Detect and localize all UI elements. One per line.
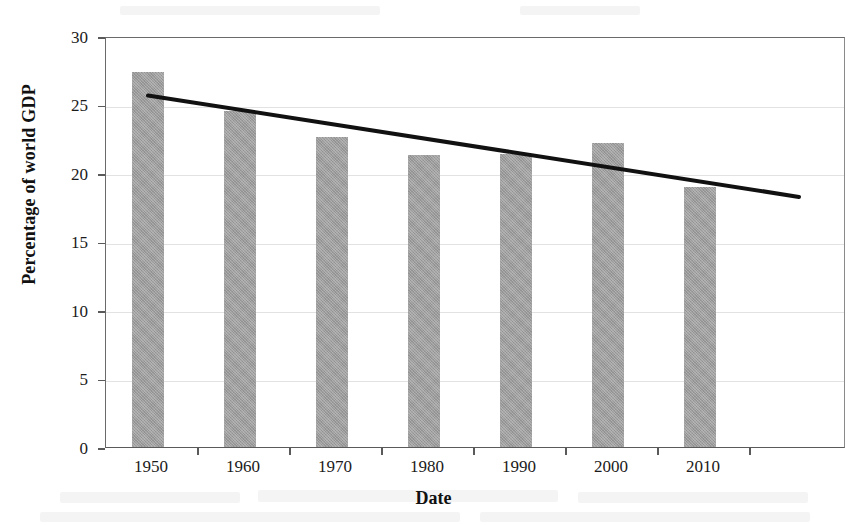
x-tick-mark [289, 448, 291, 455]
y-tick-label-25: 25 [38, 97, 88, 114]
bar-2000 [592, 143, 624, 447]
y-tick-mark [98, 380, 105, 382]
bars-layer [106, 38, 844, 447]
y-tick-mark [98, 174, 105, 176]
x-tick-label-1950: 1950 [105, 458, 197, 475]
x-tick-label-2000: 2000 [565, 458, 657, 475]
y-tick-mark [98, 311, 105, 313]
x-tick-mark [473, 448, 475, 455]
y-tick-label-15: 15 [38, 234, 88, 251]
scan-bleed-artifact [120, 6, 380, 15]
chart-figure: Percentage of world GDP 30 25 20 15 10 5… [0, 0, 867, 525]
y-tick-label-10: 10 [38, 303, 88, 320]
x-axis-title: Date [0, 488, 867, 509]
x-tick-label-1990: 1990 [473, 458, 565, 475]
y-tick-mark [98, 243, 105, 245]
y-tick-label-20: 20 [38, 166, 88, 183]
scan-bleed-artifact [40, 512, 460, 522]
plot-area [105, 37, 845, 448]
y-tick-mark [98, 37, 105, 39]
scan-bleed-artifact [480, 512, 810, 522]
x-tick-mark [565, 448, 567, 455]
y-axis-title: Percentage of world GDP [19, 70, 40, 300]
y-tick-mark [98, 448, 105, 450]
y-tick-mark [98, 106, 105, 108]
x-tick-label-1970: 1970 [289, 458, 381, 475]
y-tick-label-0: 0 [38, 440, 88, 457]
y-tick-label-5: 5 [38, 371, 88, 388]
bar-1980 [408, 155, 440, 447]
x-tick-mark [657, 448, 659, 455]
x-tick-mark [381, 448, 383, 455]
bar-2010 [684, 187, 716, 447]
x-tick-mark [749, 448, 751, 455]
y-tick-label-30: 30 [38, 29, 88, 46]
x-tick-mark [197, 448, 199, 455]
bar-1950 [132, 72, 164, 447]
x-tick-label-1980: 1980 [381, 458, 473, 475]
bar-1990 [500, 154, 532, 447]
bar-1960 [224, 111, 256, 447]
scan-bleed-artifact [520, 6, 640, 15]
bar-1970 [316, 137, 348, 447]
x-tick-label-1960: 1960 [197, 458, 289, 475]
x-tick-label-2010: 2010 [657, 458, 749, 475]
